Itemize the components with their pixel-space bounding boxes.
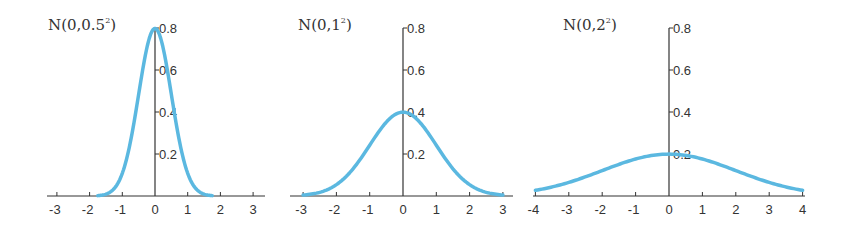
y-tick-label: 0.8 <box>673 21 691 36</box>
x-tick-label: -4 <box>528 202 540 217</box>
x-tick-label: -1 <box>362 202 374 217</box>
y-tick-label: 0.6 <box>407 63 425 78</box>
y-tick-label: 0.6 <box>673 63 691 78</box>
x-tick-label: 1 <box>699 202 706 217</box>
x-tick-label: 1 <box>433 202 440 217</box>
x-tick-label: 4 <box>799 202 806 217</box>
x-tick-label: 0 <box>399 202 406 217</box>
x-tick-label: 0 <box>665 202 672 217</box>
y-tick-label: 0.2 <box>407 147 425 162</box>
normal-distribution-figure: -3-2-101230.20.40.60.8N(0,0.52)-3-2-1012… <box>0 0 848 227</box>
x-tick-label: 3 <box>766 202 773 217</box>
x-tick-label: -1 <box>628 202 640 217</box>
x-tick-label: -2 <box>329 202 341 217</box>
x-tick-label: -3 <box>49 202 61 217</box>
x-tick-label: 0 <box>151 202 158 217</box>
y-tick-label: 0.2 <box>159 147 177 162</box>
x-tick-label: 3 <box>499 202 506 217</box>
chart-title: N(0,0.52) <box>48 16 116 34</box>
x-tick-label: 3 <box>249 202 256 217</box>
x-tick-label: 2 <box>732 202 739 217</box>
x-tick-label: -1 <box>115 202 127 217</box>
x-tick-label: 2 <box>466 202 473 217</box>
x-tick-label: 1 <box>184 202 191 217</box>
chart-title: N(0,22) <box>563 16 617 34</box>
chart-3: -4-3-2-1012340.20.40.60.8N(0,22) <box>528 16 807 217</box>
y-tick-label: 0.4 <box>673 105 691 120</box>
charts-canvas: -3-2-101230.20.40.60.8N(0,0.52)-3-2-1012… <box>0 0 848 227</box>
x-tick-label: -3 <box>561 202 573 217</box>
chart-1: -3-2-101230.20.40.60.8N(0,0.52) <box>47 16 265 217</box>
x-tick-label: 2 <box>217 202 224 217</box>
x-tick-label: -3 <box>295 202 307 217</box>
x-tick-label: -2 <box>82 202 94 217</box>
chart-2: -3-2-101230.20.40.60.8N(0,12) <box>290 16 513 217</box>
y-tick-label: 0.8 <box>407 21 425 36</box>
chart-title: N(0,12) <box>298 16 352 34</box>
y-tick-label: 0.8 <box>159 21 177 36</box>
x-tick-label: -2 <box>594 202 606 217</box>
